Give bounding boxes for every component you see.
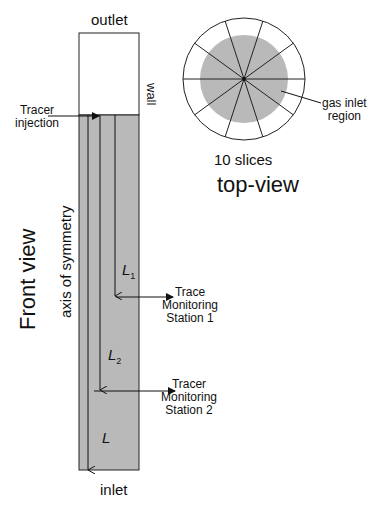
station-1-label: Trace Monitoring Station 1 [150,286,230,326]
center-point [242,77,246,81]
inlet-label: inlet [100,482,128,499]
length-L2-subscript: 2 [116,356,121,366]
station-2-line3: Station 2 [149,404,229,417]
station-1-line3: Station 1 [150,312,230,325]
gas-inlet-region-label: gas inlet region [322,97,367,123]
outlet-label: outlet [91,12,128,29]
length-L1-label: L1 [122,262,135,282]
front-view-title: Front view [16,229,40,330]
column-upper-outlet-section [79,33,139,115]
length-L2-label: L2 [108,347,121,367]
tracer-injection-label: Tracer injection [15,104,59,130]
slices-label: 10 slices [214,152,272,169]
length-L1-subscript: 1 [130,271,135,281]
wall-label: wall [144,83,158,105]
top-view-circle [183,18,305,140]
tracer-injection-line2: injection [15,117,59,130]
top-view-title: top-view [217,173,299,197]
station-2-label: Tracer Monitoring Station 2 [149,378,229,418]
length-L-label: L [102,430,110,447]
gas-inlet-line2: region [322,110,367,123]
axis-of-symmetry-label: axis of symmetry [58,205,75,318]
